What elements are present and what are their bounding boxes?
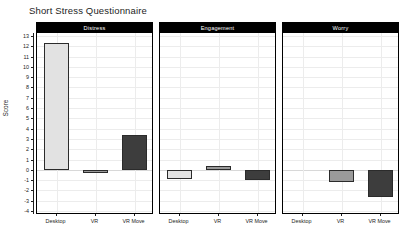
y-axis-tick-mark bbox=[31, 190, 33, 191]
bar-desktop bbox=[44, 43, 68, 170]
x-axis-tick-mark bbox=[134, 214, 135, 216]
panel-plot-body bbox=[159, 33, 276, 214]
y-axis-tick-label: 3 bbox=[26, 136, 29, 142]
y-axis-tick-label: 0 bbox=[26, 167, 29, 173]
y-axis-tick-mark bbox=[31, 46, 33, 47]
y-axis-tick-label: 10 bbox=[23, 64, 29, 70]
y-axis-tick-label: -4 bbox=[24, 208, 29, 214]
chart-panel: Worry bbox=[282, 22, 399, 214]
x-axis-tick-label: VR bbox=[214, 218, 222, 224]
x-axis-tick-mark bbox=[380, 214, 381, 216]
panel-plot-body bbox=[36, 33, 153, 214]
y-axis-tick-mark bbox=[31, 108, 33, 109]
bar-vr-move bbox=[122, 135, 146, 170]
y-axis-tick-mark bbox=[31, 139, 33, 140]
x-axis-tick-label: VR bbox=[337, 218, 345, 224]
y-axis-tick-mark bbox=[31, 160, 33, 161]
chart-panel: Engagement bbox=[159, 22, 276, 214]
x-axis-tick-label: VR Move bbox=[122, 218, 144, 224]
y-axis-tick-label: 13 bbox=[23, 33, 29, 39]
y-axis-tick-mark bbox=[31, 77, 33, 78]
gridline-vertical bbox=[258, 33, 259, 213]
x-axis-tick-label: Desktop bbox=[169, 218, 189, 224]
chart-panel: Distress bbox=[36, 22, 153, 214]
y-axis-tick-mark bbox=[31, 57, 33, 58]
gridline-vertical bbox=[219, 33, 220, 213]
y-axis-title: Score bbox=[2, 88, 9, 128]
gridline-vertical bbox=[342, 33, 343, 213]
x-axis-tick-mark bbox=[341, 214, 342, 216]
bar-vr bbox=[329, 170, 353, 182]
y-axis-tick-label: -2 bbox=[24, 187, 29, 193]
page-title: Short Stress Questionnaire bbox=[29, 5, 147, 16]
gridline-vertical bbox=[96, 33, 97, 213]
y-axis-tick-mark bbox=[31, 129, 33, 130]
x-axis-tick-label: VR Move bbox=[245, 218, 267, 224]
gridline-vertical bbox=[135, 33, 136, 213]
bar-vr bbox=[83, 170, 107, 174]
y-axis-tick-label: -3 bbox=[24, 198, 29, 204]
y-axis-tick-mark bbox=[31, 201, 33, 202]
bar-vr-move bbox=[245, 170, 269, 180]
bar-vr-move bbox=[368, 170, 392, 197]
bar-vr bbox=[206, 166, 230, 170]
y-axis-tick-mark bbox=[31, 118, 33, 119]
x-axis-tick-mark bbox=[302, 214, 303, 216]
x-axis-tick-mark bbox=[95, 214, 96, 216]
y-axis-tick-label: 9 bbox=[26, 74, 29, 80]
y-axis-tick-mark bbox=[31, 180, 33, 181]
y-axis-tick-mark bbox=[31, 67, 33, 68]
y-axis-tick-mark bbox=[31, 87, 33, 88]
x-axis-tick-label: Desktop bbox=[292, 218, 312, 224]
gridline-vertical bbox=[303, 33, 304, 213]
y-axis-tick-mark bbox=[31, 98, 33, 99]
y-axis-tick-label: 4 bbox=[26, 126, 29, 132]
y-axis-tick-label: 7 bbox=[26, 95, 29, 101]
plot-area: DistressEngagementWorry bbox=[36, 22, 399, 214]
panel-title-strip: Worry bbox=[282, 22, 399, 33]
y-axis-tick-label: 2 bbox=[26, 146, 29, 152]
bar-desktop bbox=[167, 170, 191, 179]
x-axis-tick-label: Desktop bbox=[46, 218, 66, 224]
x-axis-tick-mark bbox=[218, 214, 219, 216]
panel-title-strip: Distress bbox=[36, 22, 153, 33]
y-axis-tick-label: 11 bbox=[23, 54, 29, 60]
panel-plot-body bbox=[282, 33, 399, 214]
y-axis-tick-mark bbox=[31, 36, 33, 37]
x-axis-tick-label: VR bbox=[91, 218, 99, 224]
y-axis-tick-mark bbox=[31, 149, 33, 150]
y-axis-tick-mark bbox=[31, 170, 33, 171]
y-axis-tick-label: -1 bbox=[24, 177, 29, 183]
x-axis-tick-label: VR Move bbox=[368, 218, 390, 224]
x-axis-tick-mark bbox=[257, 214, 258, 216]
x-axis-tick-mark bbox=[56, 214, 57, 216]
gridline-vertical bbox=[180, 33, 181, 213]
y-axis-line bbox=[33, 33, 34, 214]
chart-container: Short Stress Questionnaire Score 1312111… bbox=[0, 0, 403, 237]
panel-title-strip: Engagement bbox=[159, 22, 276, 33]
x-axis-tick-mark bbox=[179, 214, 180, 216]
y-axis-tick-label: 1 bbox=[26, 157, 29, 163]
y-axis-tick-mark bbox=[31, 211, 33, 212]
y-axis-tick-label: 12 bbox=[23, 43, 29, 49]
y-axis-tick-label: 6 bbox=[26, 105, 29, 111]
y-axis-tick-label: 8 bbox=[26, 84, 29, 90]
y-axis-tick-label: 5 bbox=[26, 115, 29, 121]
